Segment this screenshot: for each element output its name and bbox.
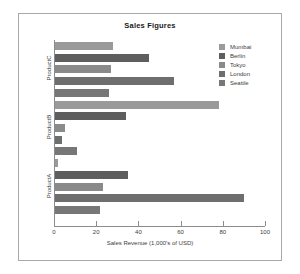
legend-label: Tokyo <box>230 62 246 68</box>
bar-row <box>54 110 265 122</box>
bar-tokyo-producta <box>54 183 103 191</box>
x-axis-title: Sales Revenue (1,000's of USD) <box>19 240 281 246</box>
legend-swatch-icon <box>219 53 225 59</box>
bar-mumbai-productb <box>54 101 219 109</box>
bar-seattle-productb <box>54 147 77 155</box>
bar-row <box>54 134 265 146</box>
chart-figure: Sales Figures 020406080100 ProductCProdu… <box>18 13 282 261</box>
bar-row <box>54 204 265 216</box>
bar-row <box>54 157 265 169</box>
bar-london-productb <box>54 136 62 144</box>
x-tick-label: 60 <box>177 229 184 235</box>
bar-berlin-productb <box>54 112 126 120</box>
y-category-label-productc: ProductC <box>46 40 52 96</box>
bar-london-producta <box>54 194 244 202</box>
x-tick-label: 0 <box>52 229 55 235</box>
x-tick-mark <box>54 221 55 226</box>
legend-item-berlin[interactable]: Berlin <box>219 52 251 61</box>
bar-row <box>54 122 265 134</box>
legend-item-tokyo[interactable]: Tokyo <box>219 61 251 70</box>
bar-berlin-productc <box>54 54 149 62</box>
x-tick-label: 80 <box>219 229 226 235</box>
legend-item-london[interactable]: London <box>219 70 251 79</box>
bar-berlin-producta <box>54 171 128 179</box>
bar-tokyo-productb <box>54 124 65 132</box>
chart-title: Sales Figures <box>19 21 281 30</box>
x-tick-label: 100 <box>260 229 270 235</box>
chart-legend: MumbaiBerlinTokyoLondonSeattle <box>219 43 251 88</box>
bar-row <box>54 181 265 193</box>
legend-swatch-icon <box>219 71 225 77</box>
legend-swatch-icon <box>219 62 225 68</box>
bar-row <box>54 99 265 111</box>
bar-seattle-productc <box>54 89 109 97</box>
bar-group-productb <box>54 99 265 158</box>
bar-row <box>54 169 265 181</box>
legend-item-mumbai[interactable]: Mumbai <box>219 43 251 52</box>
bar-tokyo-productc <box>54 65 111 73</box>
legend-swatch-icon <box>219 80 225 86</box>
x-tick-mark <box>181 221 182 226</box>
x-tick-label: 20 <box>93 229 100 235</box>
y-category-label-producta: ProductA <box>46 158 52 214</box>
bar-mumbai-productc <box>54 42 113 50</box>
bar-row <box>54 87 265 99</box>
legend-label: Berlin <box>230 53 245 59</box>
x-axis-line <box>54 226 265 227</box>
bar-london-productc <box>54 77 174 85</box>
y-axis-line <box>54 40 55 226</box>
bar-group-producta <box>54 157 265 216</box>
x-tick-mark <box>265 221 266 226</box>
legend-label: Seattle <box>230 80 249 86</box>
y-category-label-productb: ProductB <box>46 99 52 155</box>
legend-label: Mumbai <box>230 44 251 50</box>
x-tick-label: 40 <box>135 229 142 235</box>
x-tick-mark <box>223 221 224 226</box>
legend-item-seattle[interactable]: Seattle <box>219 79 251 88</box>
bar-row <box>54 192 265 204</box>
bar-row <box>54 146 265 158</box>
legend-label: London <box>230 71 250 77</box>
x-tick-mark <box>138 221 139 226</box>
x-tick-mark <box>96 221 97 226</box>
legend-swatch-icon <box>219 44 225 50</box>
bar-seattle-producta <box>54 206 100 214</box>
